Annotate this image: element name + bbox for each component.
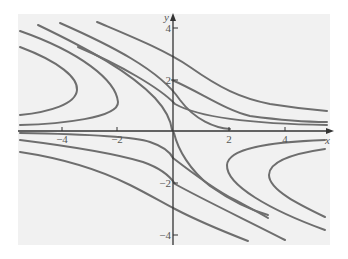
y-tick-label: −2 bbox=[159, 177, 171, 189]
x-axis-label: x bbox=[324, 134, 330, 146]
y-tick-label: 2 bbox=[166, 74, 172, 86]
y-tick-label: 4 bbox=[166, 22, 172, 34]
x-tick-label: 2 bbox=[226, 133, 232, 145]
x-tick-label: −4 bbox=[56, 133, 68, 145]
x-tick-label: −2 bbox=[111, 133, 123, 145]
y-tick-label: −4 bbox=[159, 229, 171, 241]
x-tick-label: 4 bbox=[282, 133, 288, 145]
phase-portrait-figure: −4−224 42−2−4 x y bbox=[0, 0, 348, 259]
plot-background bbox=[18, 14, 330, 245]
y-axis-label: y bbox=[163, 11, 169, 23]
